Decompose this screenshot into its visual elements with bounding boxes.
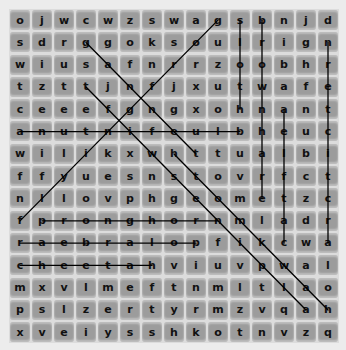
letter-cell[interactable]: f (208, 233, 228, 253)
letter-cell[interactable]: x (120, 144, 140, 164)
letter-cell[interactable]: p (252, 255, 272, 275)
letter-cell[interactable]: o (10, 10, 30, 30)
letter-cell[interactable]: h (230, 99, 250, 119)
letter-cell[interactable]: y (164, 300, 184, 320)
letter-cell[interactable]: r (120, 300, 140, 320)
letter-cell[interactable]: r (186, 211, 206, 231)
letter-cell[interactable]: c (10, 255, 30, 275)
letter-cell[interactable]: p (32, 211, 52, 231)
letter-cell[interactable]: l (54, 188, 74, 208)
letter-cell[interactable]: t (76, 77, 96, 97)
letter-cell[interactable]: a (274, 211, 294, 231)
letter-cell[interactable]: x (186, 77, 206, 97)
letter-cell[interactable]: v (32, 322, 52, 342)
letter-cell[interactable]: f (296, 77, 316, 97)
letter-cell[interactable]: x (32, 278, 52, 298)
letter-cell[interactable]: w (142, 144, 162, 164)
letter-cell[interactable]: m (208, 300, 228, 320)
letter-cell[interactable]: z (208, 55, 228, 75)
letter-cell[interactable]: g (120, 99, 140, 119)
letter-cell[interactable]: m (230, 188, 250, 208)
letter-cell[interactable]: r (318, 55, 338, 75)
letter-cell[interactable]: i (120, 121, 140, 141)
letter-cell[interactable]: n (32, 121, 52, 141)
letter-cell[interactable]: g (120, 211, 140, 231)
letter-cell[interactable]: u (208, 32, 228, 52)
letter-cell[interactable]: s (142, 322, 162, 342)
letter-cell[interactable]: o (208, 188, 228, 208)
letter-cell[interactable]: v (98, 188, 118, 208)
letter-cell[interactable]: s (10, 32, 30, 52)
letter-cell[interactable]: t (230, 77, 250, 97)
letter-cell[interactable]: s (76, 55, 96, 75)
letter-cell[interactable]: i (318, 144, 338, 164)
letter-cell[interactable]: e (274, 121, 294, 141)
letter-cell[interactable]: n (252, 99, 272, 119)
letter-cell[interactable]: j (296, 10, 316, 30)
letter-cell[interactable]: u (296, 121, 316, 141)
letter-cell[interactable]: z (230, 300, 250, 320)
letter-cell[interactable]: w (10, 144, 30, 164)
letter-cell[interactable]: n (142, 55, 162, 75)
letter-cell[interactable]: r (10, 233, 30, 253)
letter-cell[interactable]: o (164, 233, 184, 253)
letter-cell[interactable]: w (164, 10, 184, 30)
letter-cell[interactable]: q (274, 300, 294, 320)
letter-cell[interactable]: z (32, 77, 52, 97)
letter-cell[interactable]: n (274, 10, 294, 30)
letter-cell[interactable]: t (208, 144, 228, 164)
letter-cell[interactable]: c (318, 188, 338, 208)
letter-cell[interactable]: p (186, 233, 206, 253)
letter-cell[interactable]: i (76, 144, 96, 164)
letter-cell[interactable]: i (230, 233, 250, 253)
letter-cell[interactable]: v (230, 166, 250, 186)
letter-cell[interactable]: s (230, 10, 250, 30)
letter-cell[interactable]: v (274, 322, 294, 342)
letter-cell[interactable]: s (164, 166, 184, 186)
letter-cell[interactable]: f (142, 278, 162, 298)
letter-cell[interactable]: o (76, 211, 96, 231)
letter-cell[interactable]: l (32, 188, 52, 208)
letter-cell[interactable]: g (164, 188, 184, 208)
letter-cell[interactable]: r (252, 32, 272, 52)
letter-cell[interactable]: b (230, 121, 250, 141)
letter-cell[interactable]: o (120, 32, 140, 52)
letter-cell[interactable]: f (120, 55, 140, 75)
letter-cell[interactable]: t (142, 300, 162, 320)
letter-cell[interactable]: d (32, 32, 52, 52)
letter-cell[interactable]: s (120, 166, 140, 186)
letter-cell[interactable]: t (230, 322, 250, 342)
letter-cell[interactable]: n (142, 99, 162, 119)
letter-cell[interactable]: p (10, 300, 30, 320)
letter-cell[interactable]: y (98, 322, 118, 342)
letter-cell[interactable]: l (142, 233, 162, 253)
letter-cell[interactable]: i (186, 255, 206, 275)
letter-cell[interactable]: n (98, 211, 118, 231)
letter-cell[interactable]: o (318, 278, 338, 298)
letter-cell[interactable]: e (76, 99, 96, 119)
letter-cell[interactable]: c (10, 99, 30, 119)
letter-cell[interactable]: t (274, 188, 294, 208)
letter-cell[interactable]: z (76, 300, 96, 320)
letter-cell[interactable]: z (296, 188, 316, 208)
letter-cell[interactable]: f (32, 166, 52, 186)
letter-cell[interactable]: n (296, 99, 316, 119)
letter-cell[interactable]: n (10, 188, 30, 208)
letter-cell[interactable]: u (76, 166, 96, 186)
letter-cell[interactable]: x (186, 99, 206, 119)
letter-cell[interactable]: a (252, 144, 272, 164)
letter-cell[interactable]: k (98, 144, 118, 164)
letter-cell[interactable]: f (142, 121, 162, 141)
letter-cell[interactable]: g (296, 32, 316, 52)
letter-cell[interactable]: c (274, 233, 294, 253)
letter-cell[interactable]: r (98, 233, 118, 253)
letter-cell[interactable]: o (230, 55, 250, 75)
letter-cell[interactable]: b (252, 10, 272, 30)
letter-cell[interactable]: j (164, 77, 184, 97)
letter-cell[interactable]: n (318, 32, 338, 52)
letter-cell[interactable]: u (54, 121, 74, 141)
letter-cell[interactable]: l (318, 255, 338, 275)
letter-cell[interactable]: b (296, 144, 316, 164)
letter-cell[interactable]: o (208, 166, 228, 186)
letter-cell[interactable]: a (296, 278, 316, 298)
